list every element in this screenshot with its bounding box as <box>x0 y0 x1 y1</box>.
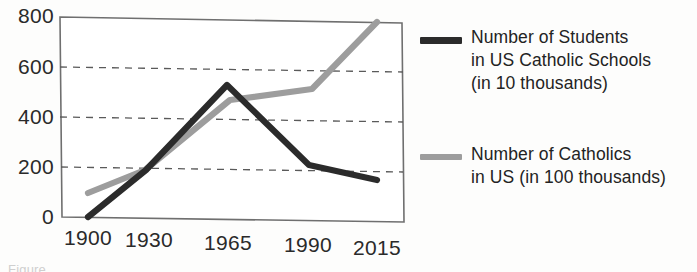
chart-screenshot: 800 600 400 200 0 1900 1930 1965 1990 20… <box>0 0 697 272</box>
ytick-label-400: 400 <box>2 105 54 129</box>
gray-line-swatch <box>420 154 462 160</box>
legend-label-students: Number of Students in US Catholic School… <box>471 26 651 95</box>
chart-legend: Number of Students in US Catholic School… <box>418 0 697 272</box>
line-chart-figure: 800 600 400 200 0 1900 1930 1965 1990 20… <box>0 0 415 272</box>
clipped-figure-caption: Figure <box>8 262 46 272</box>
ytick-label-600: 600 <box>2 55 54 79</box>
legend-item-students[interactable]: Number of Students in US Catholic School… <box>420 26 651 95</box>
xtick-label-1990: 1990 <box>272 233 344 257</box>
xtick-label-1965: 1965 <box>192 231 264 255</box>
legend-label-catholics: Number of Catholics in US (in 100 thousa… <box>471 143 666 189</box>
black-line-swatch <box>420 37 462 44</box>
ytick-label-0: 0 <box>2 205 54 229</box>
legend-item-catholics[interactable]: Number of Catholics in US (in 100 thousa… <box>420 143 666 189</box>
ytick-label-200: 200 <box>2 155 54 179</box>
xtick-label-2015: 2015 <box>341 236 413 260</box>
xtick-label-1930: 1930 <box>113 228 185 252</box>
ytick-label-800: 800 <box>2 4 54 28</box>
